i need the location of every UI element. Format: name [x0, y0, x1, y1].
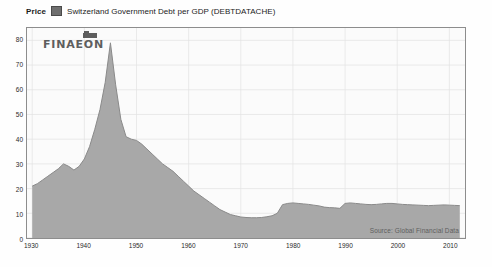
x-tick-label: 2000 [391, 242, 405, 249]
y-axis: 01020304050607080 [0, 27, 23, 239]
x-tick-label: 1940 [76, 242, 90, 249]
y-tick-label: 0 [19, 236, 23, 243]
y-tick-label: 30 [16, 161, 23, 168]
chart-screenshot: Price Switzerland Government Debt per GD… [0, 0, 492, 267]
price-axis-label: Price [26, 7, 46, 16]
x-tick-label: 2010 [443, 242, 457, 249]
y-tick-label: 10 [16, 211, 23, 218]
legend-series-label: Switzerland Government Debt per GDP (DEB… [67, 7, 275, 16]
x-tick-label: 1950 [129, 242, 143, 249]
x-tick-label: 1970 [234, 242, 248, 249]
source-attribution: Source: Global Financial Data [370, 227, 459, 234]
legend-color-swatch [51, 6, 62, 16]
chart-legend-header: Price Switzerland Government Debt per GD… [26, 6, 275, 16]
x-tick-label: 1930 [24, 242, 38, 249]
x-tick-label: 1980 [286, 242, 300, 249]
y-tick-label: 20 [16, 186, 23, 193]
x-tick-label: 1990 [338, 242, 352, 249]
plot-area: FINAEON Source: Global Financial Data [26, 27, 466, 239]
x-tick-label: 1960 [181, 242, 195, 249]
area-series [27, 28, 465, 238]
y-tick-label: 60 [16, 86, 23, 93]
x-axis: 193019401950196019701980199020002010 [26, 242, 466, 254]
y-tick-label: 70 [16, 61, 23, 68]
y-tick-label: 50 [16, 111, 23, 118]
y-tick-label: 40 [16, 136, 23, 143]
y-tick-label: 80 [16, 36, 23, 43]
